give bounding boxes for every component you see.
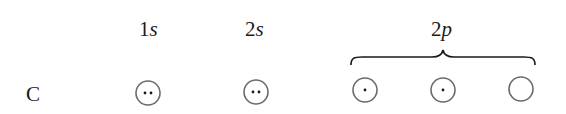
electron-dot	[252, 91, 255, 94]
electron-dot	[144, 92, 147, 95]
orbital-2p-z	[509, 77, 533, 101]
orbital-diagram	[0, 0, 566, 114]
orbital-2p-y	[431, 78, 455, 102]
electron-dot	[442, 89, 445, 92]
brace-2p	[351, 50, 535, 65]
electron-dot	[258, 91, 261, 94]
orbital-1s	[136, 81, 160, 105]
orbital-2p-x	[353, 78, 377, 102]
orbital-2s	[244, 80, 268, 104]
electron-dot	[150, 92, 153, 95]
electron-dot	[364, 89, 367, 92]
